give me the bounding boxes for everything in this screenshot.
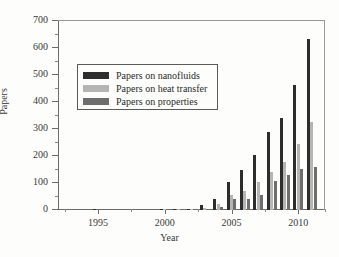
legend-swatch-nanofluids [83,72,109,79]
y-tick-label: 400 [33,96,48,106]
y-tick-label: 700 [33,15,48,25]
bar-series-layer [58,20,325,210]
y-tick-label: 500 [33,69,48,79]
bar [180,209,183,210]
legend-item-properties: Papers on properties [83,95,212,107]
bar [220,207,223,210]
y-axis-title: Papers [0,88,9,115]
x-tick-label: 2005 [222,217,242,228]
figure-canvas: 0100200300400500600700 1995200020052010 … [0,0,339,257]
bar [93,209,96,210]
legend-item-nanofluids: Papers on nanofluids [83,69,212,81]
bar [163,209,166,210]
legend-swatch-properties [83,98,109,105]
bar [233,199,236,210]
bar [193,209,196,210]
x-tick-label: 2010 [288,217,308,228]
bar [287,175,290,210]
legend-label-heat-transfer: Papers on heat transfer [116,83,207,94]
y-tick-label: 100 [33,177,48,187]
bar [260,195,263,210]
x-tick-minor [325,209,326,212]
legend-label-nanofluids: Papers on nanofluids [116,70,200,81]
legend-label-properties: Papers on properties [116,96,198,107]
y-tick-label: 600 [33,42,48,52]
y-tick-label: 0 [43,204,48,214]
y-tick-label: 300 [33,123,48,133]
x-axis-title: Year [0,232,339,243]
legend-swatch-heat-transfer [83,85,109,92]
bar [247,199,250,210]
chart-legend: Papers on nanofluids Papers on heat tran… [77,64,218,110]
x-tick-label: 1995 [88,217,108,228]
y-tick-label: 200 [33,150,48,160]
bar [300,169,303,210]
x-tick-label: 2000 [155,217,175,228]
bar [207,209,210,210]
bar [314,167,317,210]
legend-item-heat-transfer: Papers on heat transfer [83,82,212,94]
bar [274,181,277,210]
